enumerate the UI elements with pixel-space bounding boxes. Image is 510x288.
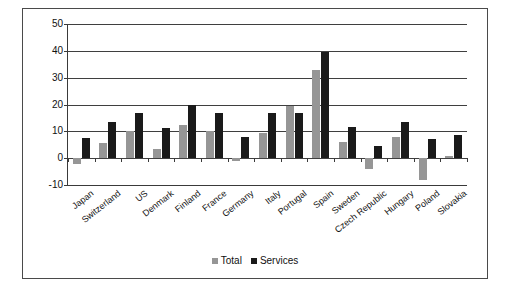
x-tick-mark [254, 158, 255, 162]
bar-total [206, 131, 214, 158]
bar-services [321, 52, 329, 158]
x-tick-mark [334, 158, 335, 162]
chart-legend: TotalServices [23, 255, 487, 266]
x-tick-mark [281, 158, 282, 162]
y-tick-label: 0 [57, 153, 63, 163]
x-tick-mark [174, 158, 175, 162]
bar-total [232, 158, 240, 161]
legend-item-total[interactable]: Total [212, 255, 242, 266]
plot-area: 50403020100-10 [67, 24, 467, 186]
y-tick-label: 20 [52, 100, 63, 110]
bar-total [312, 70, 320, 159]
bar-group [174, 24, 201, 185]
bar-total [259, 133, 267, 158]
x-axis-label: Hungary [383, 189, 415, 217]
bar-group [307, 24, 334, 185]
y-tick-label: 40 [52, 46, 63, 56]
x-tick-mark [440, 158, 441, 162]
bar-services [108, 122, 116, 158]
bar-services [295, 113, 303, 159]
bar-total [153, 149, 161, 158]
bar-group [440, 24, 467, 185]
bar-group [334, 24, 361, 185]
x-tick-mark [414, 158, 415, 162]
bar-total [419, 158, 427, 179]
x-tick-mark [201, 158, 202, 162]
bar-services [135, 113, 143, 159]
x-tick-mark [228, 158, 229, 162]
x-tick-mark [467, 158, 468, 162]
bar-group [361, 24, 388, 185]
x-axis-label: Finland [173, 189, 202, 214]
bar-group [281, 24, 308, 185]
bar-group [387, 24, 414, 185]
legend-label: Total [221, 255, 242, 266]
x-axis-label: Italy [263, 189, 282, 206]
bar-services [82, 138, 90, 158]
x-axis-label: Slovakia [436, 189, 468, 217]
total-swatch-icon [212, 258, 218, 264]
bar-services [162, 128, 170, 158]
bar-group [201, 24, 228, 185]
bar-total [392, 137, 400, 158]
bar-total [179, 125, 187, 159]
bars-layer [68, 24, 467, 185]
bar-total [365, 158, 373, 169]
x-tick-mark [307, 158, 308, 162]
bar-services [428, 139, 436, 158]
bar-services [241, 137, 249, 158]
bar-total [445, 156, 453, 158]
bar-services [401, 122, 409, 158]
bar-group [68, 24, 95, 185]
x-tick-mark [95, 158, 96, 162]
chart-frame: 50403020100-10 JapanSwitzerlandUSDenmark… [22, 8, 488, 279]
bar-group [414, 24, 441, 185]
bar-services [188, 105, 196, 159]
bar-services [374, 146, 382, 158]
x-tick-mark [121, 158, 122, 162]
bar-group [95, 24, 122, 185]
bar-services [348, 127, 356, 158]
bar-group [148, 24, 175, 185]
bar-total [73, 158, 81, 163]
y-tick-label: 30 [52, 73, 63, 83]
bar-total [99, 143, 107, 158]
x-axis-label: US [134, 189, 149, 204]
x-axis-labels: JapanSwitzerlandUSDenmarkFinlandFranceGe… [67, 186, 467, 246]
x-tick-mark [148, 158, 149, 162]
bar-services [454, 135, 462, 158]
x-tick-mark [387, 158, 388, 162]
y-tick-label: 50 [52, 19, 63, 29]
bar-total [126, 131, 134, 158]
bar-group [121, 24, 148, 185]
bar-total [286, 106, 294, 158]
legend-label: Services [260, 255, 298, 266]
y-tick-label: 10 [52, 126, 63, 136]
bar-services [215, 113, 223, 158]
bar-group [254, 24, 281, 185]
bar-group [228, 24, 255, 185]
bar-services [268, 113, 276, 158]
x-tick-mark [68, 158, 69, 162]
bar-total [339, 142, 347, 158]
legend-item-services[interactable]: Services [251, 255, 298, 266]
y-tick-label: -10 [49, 180, 63, 190]
x-tick-mark [361, 158, 362, 162]
services-swatch-icon [251, 258, 257, 264]
